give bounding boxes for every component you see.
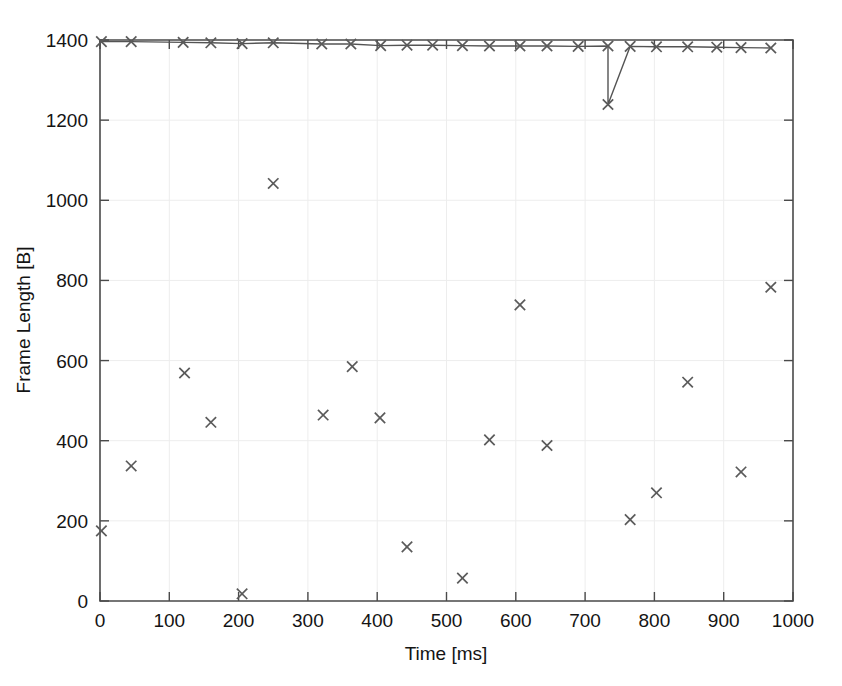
data-point-marker xyxy=(457,573,467,583)
data-point-marker xyxy=(542,440,552,450)
y-axis-tick-label: 1000 xyxy=(46,190,88,211)
data-point-marker xyxy=(484,435,494,445)
data-point-marker xyxy=(347,361,357,371)
x-axis-tick-label: 600 xyxy=(500,610,532,631)
x-axis-tick-label: 300 xyxy=(292,610,324,631)
data-point-marker xyxy=(96,526,106,536)
y-axis-tick-label: 0 xyxy=(77,591,88,612)
y-axis-label: Frame Length [B] xyxy=(13,247,34,394)
data-point-marker xyxy=(625,514,635,524)
x-axis-tick-label: 900 xyxy=(708,610,740,631)
data-point-marker xyxy=(402,542,412,552)
x-axis-label: Time [ms] xyxy=(405,643,488,664)
grid-layer xyxy=(100,40,793,601)
data-point-marker xyxy=(206,417,216,427)
x-axis-tick-label: 500 xyxy=(431,610,463,631)
y-axis-tick-label: 400 xyxy=(56,431,88,452)
x-axis-tick-label: 700 xyxy=(569,610,601,631)
data-point-marker xyxy=(179,368,189,378)
x-axis-tick-label: 200 xyxy=(223,610,255,631)
data-point-marker xyxy=(126,461,136,471)
data-point-marker xyxy=(375,413,385,423)
data-point-marker xyxy=(651,488,661,498)
scatter-plot-figure: 0200400600800100012001400010020030040050… xyxy=(0,0,842,686)
x-axis-tick-label: 0 xyxy=(95,610,106,631)
x-axis-tick-label: 100 xyxy=(153,610,185,631)
y-axis-tick-label: 200 xyxy=(56,511,88,532)
data-point-marker xyxy=(268,178,278,188)
plot-canvas: 0200400600800100012001400010020030040050… xyxy=(0,0,842,686)
data-point-marker xyxy=(318,410,328,420)
data-point-marker xyxy=(736,467,746,477)
data-point-marker xyxy=(682,377,692,387)
data-point-marker xyxy=(766,282,776,292)
y-axis-tick-label: 600 xyxy=(56,351,88,372)
y-axis-tick-label: 1400 xyxy=(46,30,88,51)
x-axis-tick-label: 800 xyxy=(639,610,671,631)
y-axis-tick-label: 800 xyxy=(56,270,88,291)
data-point-layer xyxy=(96,36,776,599)
data-point-marker xyxy=(515,300,525,310)
y-axis-tick-label: 1200 xyxy=(46,110,88,131)
x-axis-tick-label: 1000 xyxy=(772,610,814,631)
top-cluster-connector xyxy=(101,42,770,105)
x-axis-tick-label: 400 xyxy=(361,610,393,631)
